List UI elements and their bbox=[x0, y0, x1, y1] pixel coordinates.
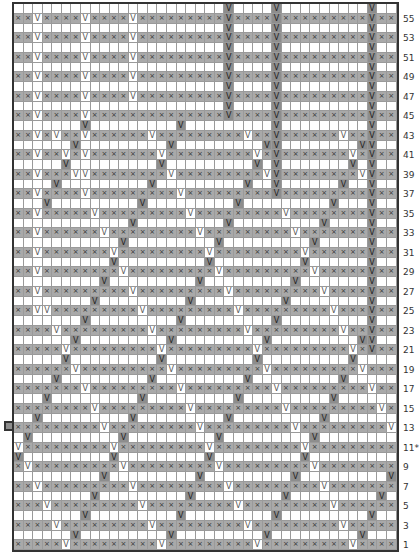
chart-cell bbox=[301, 433, 311, 443]
chart-cell bbox=[14, 102, 24, 112]
chart-cell bbox=[330, 63, 340, 73]
chart-cell bbox=[100, 531, 110, 541]
chart-cell bbox=[14, 472, 24, 482]
chart-cell bbox=[91, 531, 101, 541]
chart-row: ××V××××V×××××××××V×××××××××V×××××××××V×× bbox=[14, 189, 397, 199]
chart-row: VVVV bbox=[14, 121, 397, 131]
chart-cell bbox=[62, 414, 72, 424]
chart-cell: × bbox=[224, 170, 234, 180]
chart-cell: × bbox=[358, 423, 368, 433]
chart-cell: V bbox=[215, 267, 225, 277]
chart-cell: × bbox=[157, 131, 167, 141]
chart-cell bbox=[215, 336, 225, 346]
chart-cell bbox=[282, 82, 292, 92]
chart-cell: × bbox=[138, 170, 148, 180]
chart-cell bbox=[110, 43, 120, 53]
chart-cell: × bbox=[358, 384, 368, 394]
chart-cell: × bbox=[14, 131, 24, 141]
chart-cell: V bbox=[272, 170, 282, 180]
chart-cell bbox=[339, 531, 349, 541]
chart-cell: × bbox=[215, 306, 225, 316]
chart-cell: × bbox=[339, 72, 349, 82]
chart-cell bbox=[138, 511, 148, 521]
chart-cell: × bbox=[320, 72, 330, 82]
chart-cell: × bbox=[138, 443, 148, 453]
chart-cell: × bbox=[43, 150, 53, 160]
chart-cell bbox=[157, 297, 167, 307]
chart-cell bbox=[91, 141, 101, 151]
chart-cell: × bbox=[215, 287, 225, 297]
chart-cell: × bbox=[339, 384, 349, 394]
chart-cell bbox=[177, 160, 187, 170]
chart-cell: × bbox=[244, 170, 254, 180]
chart-cell bbox=[244, 219, 254, 229]
chart-cell bbox=[339, 141, 349, 151]
chart-cell: × bbox=[358, 92, 368, 102]
chart-cell: × bbox=[310, 404, 320, 414]
chart-cell: × bbox=[186, 482, 196, 492]
chart-cell bbox=[368, 394, 378, 404]
chart-row: ××V×V××V××××××V×××××××××V××V××××××V××V×× bbox=[14, 131, 397, 141]
chart-cell bbox=[301, 238, 311, 248]
chart-cell bbox=[310, 43, 320, 53]
chart-cell: × bbox=[330, 72, 340, 82]
chart-row: VVVV bbox=[14, 511, 397, 521]
chart-cell: × bbox=[14, 72, 24, 82]
chart-cell: × bbox=[330, 462, 340, 472]
chart-cell: × bbox=[110, 267, 120, 277]
chart-cell bbox=[43, 316, 53, 326]
chart-cell: V bbox=[43, 306, 53, 316]
chart-cell bbox=[33, 121, 43, 131]
chart-cell: × bbox=[301, 33, 311, 43]
chart-cell: × bbox=[100, 482, 110, 492]
chart-cell: × bbox=[234, 462, 244, 472]
chart-cell bbox=[186, 24, 196, 34]
chart-cell bbox=[157, 141, 167, 151]
chart-row: VVVVVV bbox=[14, 141, 397, 151]
chart-cell bbox=[167, 472, 177, 482]
chart-cell bbox=[358, 238, 368, 248]
chart-cell: × bbox=[224, 228, 234, 238]
chart-cell: × bbox=[377, 423, 387, 433]
chart-cell bbox=[272, 375, 282, 385]
chart-cell: V bbox=[224, 414, 234, 424]
chart-cell: × bbox=[330, 404, 340, 414]
chart-cell: V bbox=[272, 82, 282, 92]
chart-cell: × bbox=[377, 170, 387, 180]
chart-cell bbox=[43, 121, 53, 131]
chart-cell bbox=[148, 297, 158, 307]
chart-cell bbox=[186, 453, 196, 463]
chart-cell bbox=[196, 24, 206, 34]
chart-row: ×××××××V×××××××××V×××××××××V×××××××××V×× bbox=[14, 384, 397, 394]
chart-cell bbox=[138, 258, 148, 268]
chart-cell bbox=[272, 277, 282, 287]
chart-cell: × bbox=[224, 267, 234, 277]
chart-cell bbox=[358, 24, 368, 34]
chart-cell: × bbox=[62, 423, 72, 433]
chart-cell: × bbox=[282, 267, 292, 277]
chart-cell: × bbox=[263, 521, 273, 531]
chart-cell: V bbox=[368, 150, 378, 160]
chart-cell bbox=[167, 453, 177, 463]
chart-cell: × bbox=[291, 521, 301, 531]
chart-cell: × bbox=[14, 404, 24, 414]
chart-cell: × bbox=[119, 248, 129, 258]
chart-cell: × bbox=[110, 72, 120, 82]
chart-cell bbox=[110, 219, 120, 229]
chart-cell: × bbox=[62, 228, 72, 238]
chart-cell: × bbox=[100, 540, 110, 550]
chart-cell: × bbox=[234, 326, 244, 336]
chart-cell bbox=[244, 102, 254, 112]
chart-cell: × bbox=[138, 365, 148, 375]
chart-cell bbox=[186, 102, 196, 112]
chart-cell: V bbox=[24, 433, 34, 443]
chart-cell: × bbox=[43, 209, 53, 219]
chart-cell: × bbox=[100, 33, 110, 43]
chart-cell bbox=[100, 511, 110, 521]
chart-cell: × bbox=[215, 345, 225, 355]
chart-cell bbox=[358, 394, 368, 404]
chart-cell bbox=[301, 316, 311, 326]
chart-cell: × bbox=[71, 443, 81, 453]
chart-cell: × bbox=[310, 53, 320, 63]
chart-cell: × bbox=[186, 228, 196, 238]
